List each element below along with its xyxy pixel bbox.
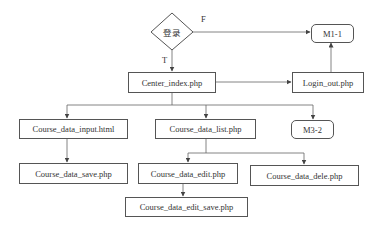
node-m3-2: M3-2 bbox=[291, 120, 334, 139]
node-login-out: Login_out.php bbox=[292, 72, 364, 93]
node-course-data-save: Course_data_save.php bbox=[19, 163, 128, 184]
false-branch-label: F bbox=[201, 14, 206, 24]
node-course-data-input: Course_data_input.html bbox=[19, 119, 128, 139]
node-course-data-dele: Course_data_dele.php bbox=[250, 165, 359, 186]
node-center-index: Center_index.php bbox=[128, 72, 216, 93]
true-branch-label: T bbox=[162, 55, 167, 65]
node-course-data-edit: Course_data_edit.php bbox=[138, 163, 238, 184]
node-course-data-list: Course_data_list.php bbox=[155, 119, 256, 139]
node-course-data-edit-save: Course_data_edit_save.php bbox=[125, 197, 248, 217]
decision-label: 登录 bbox=[163, 26, 181, 38]
node-m1-1: M1-1 bbox=[311, 24, 354, 43]
